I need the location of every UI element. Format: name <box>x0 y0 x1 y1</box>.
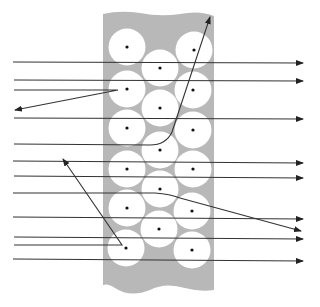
fiber-center-dot <box>190 209 193 212</box>
fiber-center-dot <box>158 148 161 151</box>
fiber-ray-diagram <box>0 0 320 307</box>
fiber-center-dot <box>157 227 160 230</box>
fiber-center-dot <box>191 128 194 131</box>
fiber-center-dot <box>125 87 128 90</box>
fiber-center-dot <box>190 248 193 251</box>
ray-2-line <box>14 80 303 81</box>
ray-3-line <box>14 90 118 110</box>
fiber-center-dot <box>124 246 127 249</box>
ray-1-line <box>13 62 303 63</box>
fiber-center-dot <box>158 66 161 69</box>
fiber-center-dot <box>125 45 128 48</box>
fiber-center-dot <box>158 106 161 109</box>
fiber-center-dot <box>125 206 128 209</box>
fiber-center-dot <box>158 187 161 190</box>
ray-4-line <box>14 118 303 119</box>
fiber-center-dot <box>125 126 128 129</box>
fiber-center-dot <box>191 167 194 170</box>
fiber-center-dot <box>192 48 195 51</box>
fiber-center-dot <box>191 88 194 91</box>
fiber-center-dot <box>125 167 128 170</box>
